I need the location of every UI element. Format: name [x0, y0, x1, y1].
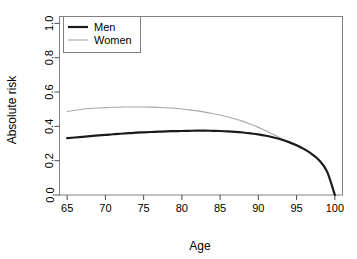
x-axis-title: Age: [189, 239, 211, 253]
chart-figure: 0.00.20.40.60.81.0 65707580859095100 Men…: [0, 0, 357, 259]
y-axis-title: Absolute risk: [5, 75, 19, 145]
y-tick-label: 0.2: [44, 153, 56, 168]
absolute-risk-line-chart: 0.00.20.40.60.81.0 65707580859095100 Men…: [0, 0, 357, 259]
x-tick-label: 90: [252, 202, 264, 214]
y-tick-label: 0.6: [44, 84, 56, 99]
legend-label-women: Women: [94, 34, 132, 46]
x-tick-label: 65: [61, 202, 73, 214]
x-tick-label: 80: [176, 202, 188, 214]
x-tick-label: 70: [99, 202, 111, 214]
x-tick-label: 85: [214, 202, 226, 214]
y-tick-label: 0.8: [44, 50, 56, 65]
x-tick-label: 75: [138, 202, 150, 214]
x-tick-label: 95: [290, 202, 302, 214]
y-tick-label: 0.0: [44, 187, 56, 202]
y-tick-label: 0.4: [44, 119, 56, 134]
legend-label-men: Men: [94, 21, 115, 33]
y-tick-label: 1.0: [44, 16, 56, 31]
x-tick-label: 100: [326, 202, 344, 214]
chart-legend: MenWomen: [64, 17, 141, 53]
